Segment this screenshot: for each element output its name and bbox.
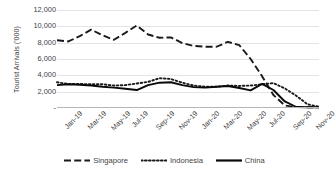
legend-label: Indonesia	[170, 156, 203, 165]
series-line-indonesia	[57, 78, 319, 107]
x-axis-tick-label: Mar-20	[222, 109, 244, 131]
legend-item-singapore[interactable]: Singapore	[64, 156, 128, 165]
y-axis-tick-label: 12,000	[14, 6, 56, 13]
x-axis-line	[57, 107, 319, 108]
legend-item-china[interactable]: China	[216, 156, 265, 165]
x-axis-tick-label: Jul-19	[130, 109, 150, 129]
solid-line-icon	[216, 156, 242, 165]
series-line-singapore	[57, 26, 319, 108]
x-axis-tick-label: Nov-20	[313, 109, 336, 132]
chart-legend: SingaporeIndonesiaChina	[0, 156, 329, 165]
x-axis-tick-label: Jan-19	[62, 109, 84, 131]
x-axis-tick-labels: Jan-19Mar-19May-19Jul-19Sep-19Nov-19Jan-…	[57, 109, 319, 153]
y-axis-tick-label: 6,000	[14, 55, 56, 62]
y-axis-tick-label: 8,000	[14, 39, 56, 46]
legend-label: Singapore	[93, 156, 128, 165]
y-axis-tick-labels: 12,00010,0008,0006,0004,0002,000-	[14, 10, 56, 108]
x-axis-tick-label: Nov-19	[177, 109, 200, 132]
x-axis-tick-label: Sep-20	[291, 109, 314, 132]
legend-item-indonesia[interactable]: Indonesia	[141, 156, 203, 165]
y-axis-tick-label: 2,000	[14, 88, 56, 95]
legend-label: China	[245, 156, 265, 165]
y-axis-tick-label: -	[14, 104, 56, 111]
dotted-line-icon	[141, 156, 167, 165]
series-lines	[57, 10, 319, 108]
y-axis-tick-label: 10,000	[14, 23, 56, 30]
dashed-line-icon	[64, 156, 90, 165]
plot-area	[57, 10, 319, 108]
x-axis-tick-label: Jan-20	[199, 109, 221, 131]
y-axis-tick-label: 4,000	[14, 72, 56, 79]
x-axis-tick-label: May-19	[109, 109, 132, 132]
x-axis-tick-label: Mar-19	[85, 109, 107, 131]
x-axis-tick-label: May-20	[245, 109, 268, 132]
x-axis-tick-label: Jul-20	[267, 109, 287, 129]
x-axis-tick-label: Sep-19	[154, 109, 177, 132]
